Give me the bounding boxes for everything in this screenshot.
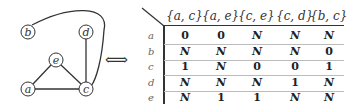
table-cell: 1 (314, 60, 344, 73)
table-cell: N (206, 45, 236, 58)
table-cell: N (206, 60, 236, 73)
graph-diagram: abcde (0, 0, 110, 106)
column-header: {a, e} (202, 9, 239, 23)
header-rule (164, 25, 344, 26)
edge-a-e (33, 65, 51, 84)
table-cell: N (314, 76, 344, 89)
table-cell: N (280, 91, 310, 104)
table-cell: 1 (280, 76, 310, 89)
table-vertical-rule (163, 26, 165, 104)
edge-b-c (32, 11, 105, 86)
node-label: a (25, 83, 32, 96)
node-label: c (83, 83, 89, 96)
table-cell: N (170, 76, 200, 89)
table-cell: N (242, 45, 272, 58)
table-cell: N (206, 76, 236, 89)
table-cell: 0 (242, 60, 272, 73)
column-header: {a, c} (166, 9, 203, 23)
table-cell: 0 (206, 29, 236, 42)
table-cell: N (280, 29, 310, 42)
row-label: b (148, 46, 154, 57)
table-cell: N (242, 76, 272, 89)
table-cell: N (170, 45, 200, 58)
row-label: d (148, 77, 154, 88)
column-header: {b, c} (310, 9, 347, 23)
table-cell: N (314, 91, 344, 104)
table-cell: 0 (314, 45, 344, 58)
table-cell: N (170, 91, 200, 104)
table-cell: 0 (170, 29, 200, 42)
equivalence-arrow: ⟺ (105, 50, 128, 69)
table-cell: N (280, 45, 310, 58)
table-cell: 0 (280, 60, 310, 73)
row-label: c (148, 61, 154, 72)
table-cell: 1 (170, 60, 200, 73)
row-label: e (148, 92, 154, 103)
table-cell: 1 (242, 91, 272, 104)
node-label: d (82, 26, 89, 39)
node-label: e (53, 54, 60, 67)
table-cell: N (242, 29, 272, 42)
row-label: a (148, 30, 154, 41)
table-cell: 1 (206, 91, 236, 104)
table-cell: N (314, 29, 344, 42)
node-label: b (24, 26, 31, 39)
column-header: {c, d} (276, 9, 313, 23)
column-header: {c, e} (238, 9, 275, 23)
edge-c-e (61, 65, 81, 84)
